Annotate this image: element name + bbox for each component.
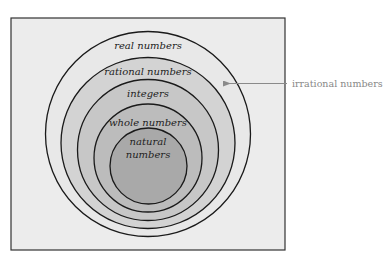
label-rational-numbers: rational numbers xyxy=(104,66,191,77)
label-natural-line2: numbers xyxy=(126,149,171,160)
label-integers: integers xyxy=(127,88,169,99)
label-natural-line1: natural xyxy=(130,136,167,147)
label-whole-numbers: whole numbers xyxy=(109,117,187,128)
label-irrational-numbers: irrational numbers xyxy=(292,78,383,89)
number-sets-diagram: real numbers rational numbers integers w… xyxy=(0,0,392,264)
label-real-numbers: real numbers xyxy=(114,40,182,51)
